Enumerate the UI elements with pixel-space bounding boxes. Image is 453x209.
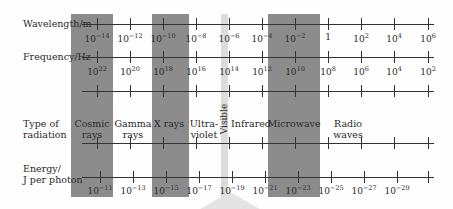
energy-tick-label: 10−17 <box>182 184 216 196</box>
tick-mark <box>394 18 395 30</box>
energy-tick-label: 10−11 <box>83 184 117 196</box>
energy-tick-label: 10−15 <box>149 184 183 196</box>
tick-mark <box>163 85 164 97</box>
divider-axis-top <box>82 91 434 92</box>
tick-mark <box>163 51 164 63</box>
tick-mark <box>163 137 164 149</box>
tick-mark <box>295 18 296 30</box>
tick-mark <box>229 51 230 63</box>
tick-mark <box>232 171 233 183</box>
wavelength-tick-label: 10−4 <box>245 32 279 44</box>
tick-mark <box>199 171 200 183</box>
tick-mark <box>428 171 429 183</box>
frequency-tick-label: 104 <box>377 65 411 77</box>
energy-tick-label: 10−19 <box>215 184 249 196</box>
energy-axis <box>82 177 434 178</box>
tick-mark <box>97 85 98 97</box>
tick-mark <box>166 171 167 183</box>
energy-tick-label: 10−29 <box>380 184 414 196</box>
tick-mark <box>361 85 362 97</box>
tick-mark <box>262 137 263 149</box>
region-label-microwave: Microwave <box>264 118 324 129</box>
frequency-tick-label: 1020 <box>113 65 147 77</box>
tick-mark <box>133 171 134 183</box>
tick-mark <box>97 18 98 30</box>
divider-axis-bottom <box>82 143 434 144</box>
energy-tick-label: 10−13 <box>116 184 150 196</box>
tick-mark <box>295 137 296 149</box>
tick-mark <box>229 18 230 30</box>
tick-mark <box>130 51 131 63</box>
wavelength-axis <box>82 24 434 25</box>
wavelength-tick-label: 102 <box>344 32 378 44</box>
energy-tick-label: 10−25 <box>314 184 348 196</box>
energy-label-2: J per photon <box>23 174 83 185</box>
frequency-axis <box>82 57 434 58</box>
type-label-2: radiation <box>23 129 67 140</box>
tick-mark <box>328 51 329 63</box>
frequency-tick-label: 1010 <box>278 65 312 77</box>
tick-mark <box>262 51 263 63</box>
frequency-tick-label: 102 <box>411 65 445 77</box>
tick-mark <box>331 171 332 183</box>
frequency-tick-label: 1018 <box>146 65 180 77</box>
tick-mark <box>397 171 398 183</box>
energy-tick-label: 10−21 <box>248 184 282 196</box>
tick-mark <box>196 51 197 63</box>
tick-mark <box>428 137 429 149</box>
tick-mark <box>428 51 429 63</box>
wavelength-tick-label: 10−10 <box>146 32 180 44</box>
tick-mark <box>428 85 429 97</box>
frequency-tick-label: 1014 <box>212 65 246 77</box>
energy-label-1: Energy/ <box>23 163 61 174</box>
tick-mark <box>196 18 197 30</box>
tick-mark <box>428 18 429 30</box>
tick-mark <box>262 18 263 30</box>
energy-tick-label: 10−23 <box>281 184 315 196</box>
tick-mark <box>100 171 101 183</box>
tick-mark <box>265 171 266 183</box>
wavelength-tick-label: 10−6 <box>212 32 246 44</box>
frequency-tick-label: 1016 <box>179 65 213 77</box>
wavelength-tick-label: 10−14 <box>80 32 114 44</box>
tick-mark <box>295 85 296 97</box>
tick-mark <box>262 85 263 97</box>
frequency-tick-label: 106 <box>344 65 378 77</box>
tick-mark <box>394 137 395 149</box>
tick-mark <box>97 51 98 63</box>
tick-mark <box>361 51 362 63</box>
tick-mark <box>361 18 362 30</box>
wavelength-tick-label: 10−12 <box>113 32 147 44</box>
region-label-radio-waves: Radiowaves <box>318 118 378 140</box>
tick-mark <box>163 18 164 30</box>
tick-mark <box>364 171 365 183</box>
tick-mark <box>295 51 296 63</box>
wavelength-tick-label: 10−2 <box>278 32 312 44</box>
wavelength-tick-label: 10−8 <box>179 32 213 44</box>
wavelength-tick-label: 1 <box>311 32 345 42</box>
tick-mark <box>394 85 395 97</box>
tick-mark <box>130 85 131 97</box>
tick-mark <box>394 51 395 63</box>
tick-mark <box>229 85 230 97</box>
tick-mark <box>298 171 299 183</box>
energy-tick-label: 10−27 <box>347 184 381 196</box>
tick-mark <box>130 18 131 30</box>
tick-mark <box>196 85 197 97</box>
wavelength-tick-label: 104 <box>377 32 411 44</box>
electromagnetic-spectrum-diagram: Wavelength/m Frequency/Hz Type of radiat… <box>0 0 453 209</box>
wavelength-tick-label: 106 <box>411 32 445 44</box>
tick-mark <box>328 85 329 97</box>
frequency-tick-label: 108 <box>311 65 345 77</box>
frequency-label: Frequency/Hz <box>23 51 91 62</box>
tick-mark <box>328 18 329 30</box>
frequency-tick-label: 1012 <box>245 65 279 77</box>
frequency-tick-label: 1022 <box>80 65 114 77</box>
type-label-1: Type of <box>23 118 59 129</box>
